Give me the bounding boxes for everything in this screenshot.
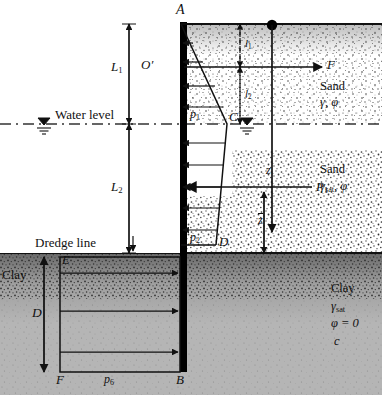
label-dim-zbar: z bbox=[258, 213, 263, 226]
label-resultant-P1: P1 bbox=[316, 180, 328, 194]
label-pressure-p1: p1 bbox=[190, 108, 200, 122]
label-point-O-prime: O′ bbox=[141, 58, 153, 71]
label-dim-D: D bbox=[32, 306, 42, 320]
label-dim-L1: L1 bbox=[111, 60, 123, 74]
figure-canvas: A O′ L1 L2 l1 l2 Water level p1 C F Sand… bbox=[0, 0, 382, 395]
diagram-svg bbox=[0, 0, 382, 395]
label-point-D: D bbox=[219, 235, 228, 248]
label-sand-dry: Sand bbox=[320, 80, 345, 93]
label-clay-right: Clay bbox=[331, 282, 355, 295]
label-clay-c: c bbox=[334, 335, 340, 348]
label-dredge-line: Dredge line bbox=[35, 236, 96, 249]
label-point-A: A bbox=[176, 3, 185, 17]
label-dim-l1: l1 bbox=[245, 38, 252, 51]
label-point-B: B bbox=[176, 373, 184, 386]
label-pressure-p6: p6 bbox=[104, 373, 114, 387]
sheet-pile-wall bbox=[180, 22, 187, 372]
label-point-E: E bbox=[62, 254, 70, 267]
label-dim-L2: L2 bbox=[111, 180, 123, 194]
label-force-F: F bbox=[327, 58, 335, 71]
label-clay-phi: φ = 0 bbox=[331, 317, 359, 330]
label-pressure-p2: p2 bbox=[190, 231, 200, 245]
label-dim-l2: l2 bbox=[245, 88, 252, 101]
label-water-level: Water level bbox=[55, 108, 114, 121]
label-sand-saturated: Sand bbox=[320, 163, 345, 176]
label-sand-dry-props: γ, φ bbox=[320, 96, 338, 109]
label-clay-left: Clay bbox=[2, 268, 27, 281]
label-dim-z: z bbox=[266, 164, 271, 176]
label-point-C: C bbox=[229, 110, 238, 123]
label-clay-gamma-sat: γsat bbox=[331, 300, 345, 314]
soil-layer-sand-dry bbox=[187, 24, 382, 124]
label-point-F-bottom: F bbox=[56, 373, 64, 386]
